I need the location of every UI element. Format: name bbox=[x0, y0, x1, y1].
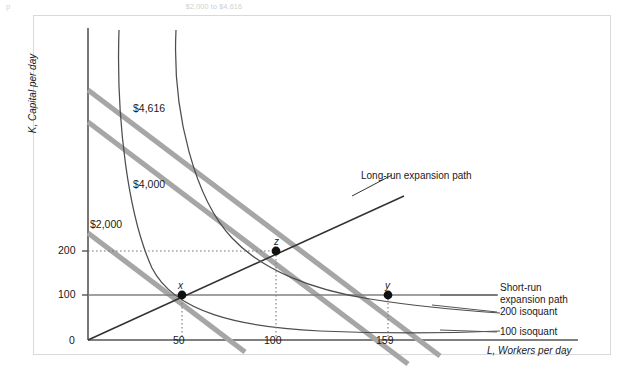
x-axis-title: L, Workers per day bbox=[487, 345, 571, 356]
figure-page: p $2,000 to $4,616 bbox=[0, 0, 635, 376]
annotation-isoquant-100: 100 isoquant bbox=[500, 326, 557, 338]
y-tick-label-100: 100 bbox=[58, 288, 76, 300]
isocost-label-4000: $4,000 bbox=[133, 178, 165, 190]
data-point-z-marker[interactable] bbox=[272, 247, 281, 256]
annotation-long-run-expansion-path: Long-run expansion path bbox=[361, 170, 472, 182]
x-tick-label-0: 0 bbox=[69, 334, 75, 346]
x-tick-label-100: 100 bbox=[264, 334, 282, 346]
y-axis-title: K, Capital per day bbox=[27, 34, 38, 154]
data-point-label-z: z bbox=[274, 236, 279, 247]
chart-svg bbox=[0, 0, 635, 376]
data-point-label-x: x bbox=[178, 280, 183, 291]
annotation-short-run-expansion-path-line2: expansion path bbox=[500, 294, 568, 306]
data-point-label-y: y bbox=[385, 280, 390, 291]
isocost-label-2000: $2,000 bbox=[90, 218, 122, 230]
isocost-label-4616: $4,616 bbox=[133, 102, 165, 114]
x-tick-label-159: 159 bbox=[376, 334, 394, 346]
x-tick-label-50: 50 bbox=[173, 334, 185, 346]
isocost-line-4000 bbox=[88, 122, 408, 364]
data-point-y-marker[interactable] bbox=[384, 291, 393, 300]
data-point-x-marker[interactable] bbox=[178, 291, 187, 300]
annotation-isoquant-200: 200 isoquant bbox=[500, 306, 557, 318]
y-tick-label-200: 200 bbox=[58, 244, 76, 256]
isoquant-isocost-chart: K, Capital per day L, Workers per day 0 … bbox=[0, 0, 635, 376]
annotation-short-run-expansion-path-line1: Short-run bbox=[500, 282, 542, 294]
